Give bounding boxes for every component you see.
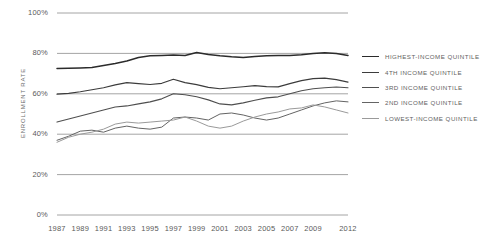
legend-item[interactable]: LOWEST-INCOME QUINTILE [362,111,494,126]
x-axis-tick-label: 1997 [165,224,183,233]
x-axis-tick-label: 1989 [72,224,90,233]
x-axis-tick-label: 1993 [118,224,136,233]
legend-item-label: 3RD INCOME QUINTILE [385,84,463,91]
legend-item-label: 4TH INCOME QUINTILE [385,69,462,76]
legend-line-swatch [362,118,379,119]
legend-item-label: LOWEST-INCOME QUINTILE [385,115,478,122]
x-axis-tick-label: 1999 [188,224,206,233]
x-axis-tick-label: 1995 [141,224,159,233]
legend-line-swatch [362,87,379,88]
legend-line-swatch [362,72,379,73]
x-axis-tick-label: 2007 [281,224,299,233]
legend-item[interactable]: HIGHEST-INCOME QUINTILE [362,49,494,64]
legend-line-swatch [362,56,379,57]
legend-item-label: HIGHEST-INCOME QUINTILE [385,53,480,60]
legend-item[interactable]: 4TH INCOME QUINTILE [362,64,494,79]
legend-item[interactable]: 2ND INCOME QUINTILE [362,95,494,110]
x-axis-tick-label: 2012 [339,224,357,233]
x-axis-tick-label: 2001 [211,224,229,233]
legend-item[interactable]: 3RD INCOME QUINTILE [362,80,494,95]
chart-legend: HIGHEST-INCOME QUINTILE4TH INCOME QUINTI… [362,49,494,126]
enrollment-rate-line-chart: ENROLLMENT RATE 0%20%40%60%80%100% 19871… [0,0,496,244]
legend-item-label: 2ND INCOME QUINTILE [385,99,463,106]
x-axis-tick-label: 2003 [234,224,252,233]
x-axis-tick-label: 2009 [304,224,322,233]
legend-line-swatch [362,102,379,103]
x-axis-tick-label: 1987 [48,224,66,233]
x-axis-tick-label: 1991 [95,224,113,233]
x-axis-tick-label: 2005 [258,224,276,233]
